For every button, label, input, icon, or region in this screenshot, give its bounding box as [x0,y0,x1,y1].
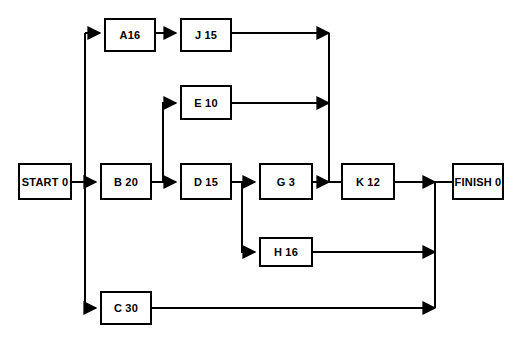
node-c[interactable]: C 30 [100,291,152,325]
node-b[interactable]: B 20 [100,163,152,200]
node-d[interactable]: D 15 [180,163,232,200]
node-start[interactable]: START 0 [18,163,72,200]
node-e-label: E 10 [194,97,217,109]
network-diagram-canvas: START 0 A16 J 15 E 10 B 20 D 15 G 3 K 12… [0,0,524,344]
node-a[interactable]: A16 [104,18,156,52]
node-k[interactable]: K 12 [341,163,395,200]
node-g-label: G 3 [277,176,295,188]
node-h[interactable]: H 16 [259,237,313,267]
node-finish[interactable]: FINISH 0 [452,163,504,200]
node-j[interactable]: J 15 [180,18,232,52]
node-start-label: START 0 [22,176,68,188]
edge-b-to-e [163,103,176,182]
node-g[interactable]: G 3 [259,163,313,200]
node-e[interactable]: E 10 [180,85,232,120]
node-d-label: D 15 [194,176,218,188]
node-h-label: H 16 [274,246,298,258]
node-a-label: A16 [120,29,141,41]
edge-d-to-h [242,182,255,252]
node-c-label: C 30 [114,302,138,314]
node-k-label: K 12 [356,176,380,188]
node-b-label: B 20 [114,176,138,188]
node-j-label: J 15 [195,29,217,41]
node-finish-label: FINISH 0 [455,176,502,188]
